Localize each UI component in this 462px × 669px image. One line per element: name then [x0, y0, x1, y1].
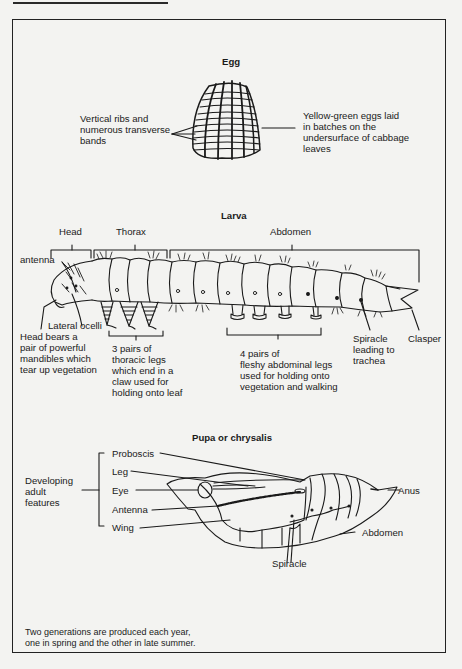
pupa-feature-antenna: Antenna: [112, 504, 148, 515]
egg-drawing: [172, 81, 295, 159]
larva-clasper-label: Clasper: [408, 333, 441, 344]
pupa-feature-leg: Leg: [112, 466, 128, 477]
pupa-spiracle-label: Spiracle: [272, 558, 307, 569]
larva-region-abdomen: Abdomen: [270, 226, 311, 237]
pupa-anus-label: Anus: [398, 485, 420, 496]
larva-spiracle-label: Spiracle leading to trachea: [353, 333, 395, 366]
egg-location-label: Yellow-green eggs laid in batches on the…: [303, 110, 409, 154]
pupa-title: Pupa or chrysalis: [192, 432, 272, 443]
larva-head-note: Head bears a pair of powerful mandibles …: [20, 331, 97, 375]
pupa-feature-wing: Wing: [112, 522, 134, 533]
larva-region-head: Head: [59, 226, 82, 237]
larva-title: Larva: [221, 210, 247, 221]
larva-thoracic-legs-label: 3 pairs of thoracic legs which end in a …: [112, 343, 182, 398]
pupa-abdomen-label: Abdomen: [362, 527, 403, 538]
larva-ocelli-label: Lateral ocelli: [48, 320, 102, 331]
pupa-feature-eye: Eye: [112, 485, 129, 496]
pupa-group-label: Developing adult features: [25, 475, 73, 508]
egg-title: Egg: [222, 56, 240, 67]
footnote: Two generations are produced each year, …: [25, 627, 196, 648]
pupa-feature-proboscis: Proboscis: [112, 448, 154, 459]
larva-abdominal-legs-label: 4 pairs of fleshy abdominal legs used fo…: [240, 348, 338, 392]
egg-ribs-label: Vertical ribs and numerous transverse ba…: [80, 113, 170, 146]
larva-region-thorax: Thorax: [116, 226, 146, 237]
larva-antenna-label: antenna: [20, 254, 55, 265]
